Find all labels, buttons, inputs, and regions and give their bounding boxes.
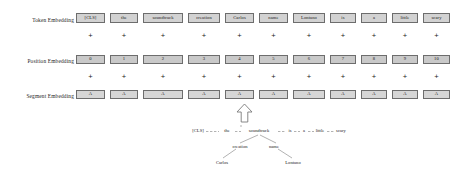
tree-node-word: [CLS] (192, 129, 204, 134)
bert-embedding-diagram: Token Embedding Position Embedding Segme… (0, 0, 472, 180)
tree-node-word: is (288, 129, 291, 134)
tree-node-word: name (269, 145, 279, 150)
tree-node-word: scary (336, 129, 346, 134)
tree-node-word: creation (232, 145, 247, 150)
tree-node-word: Lontano (285, 161, 301, 166)
tree-node-word: the (224, 129, 230, 134)
tree-node-word: soundtrack (249, 129, 270, 134)
dependency-tree: [CLS] the soundtrack is a little scary c… (0, 0, 472, 180)
tree-node-word: Carlos (216, 161, 228, 166)
tree-node-word: a (303, 129, 305, 134)
tree-node-word: little (316, 129, 325, 134)
